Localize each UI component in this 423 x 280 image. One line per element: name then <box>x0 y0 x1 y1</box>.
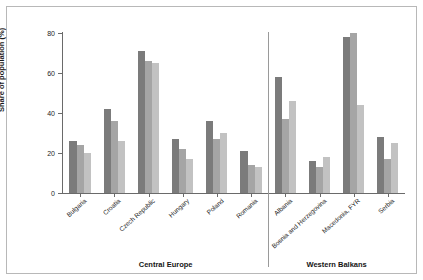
x-axis-category-label: Albania <box>272 197 293 217</box>
x-axis-category-label: Czech Republic <box>118 197 157 233</box>
region-separator <box>268 32 269 267</box>
x-axis-tick <box>149 193 150 197</box>
bar[interactable] <box>77 145 84 193</box>
bar[interactable] <box>240 151 247 193</box>
y-axis-tick-label: 0 <box>51 190 55 197</box>
bar-group <box>172 33 193 193</box>
x-axis-tick <box>354 193 355 197</box>
bar-group-bars <box>377 33 398 193</box>
bar[interactable] <box>145 61 152 193</box>
bar[interactable] <box>357 105 364 193</box>
chart-frame: Share of population (%) 020406080Bulgari… <box>6 6 417 274</box>
bar[interactable] <box>104 109 111 193</box>
x-axis-tick <box>388 193 389 197</box>
bar[interactable] <box>391 143 398 193</box>
bar[interactable] <box>118 141 125 193</box>
bar[interactable] <box>152 63 159 193</box>
y-axis-tick <box>58 113 63 114</box>
y-axis-tick-label: 80 <box>47 30 55 37</box>
bar[interactable] <box>206 121 213 193</box>
bar-group-bars <box>138 33 159 193</box>
x-axis-tick <box>80 193 81 197</box>
bar[interactable] <box>84 153 91 193</box>
bar[interactable] <box>275 77 282 193</box>
bar[interactable] <box>186 159 193 193</box>
bar-group-bars <box>69 33 90 193</box>
x-axis-category-label: Hungary <box>167 197 190 219</box>
bar[interactable] <box>255 167 262 193</box>
region-label: Central Europe <box>139 260 193 269</box>
bar-group-bars <box>343 33 364 193</box>
bar-group-bars <box>275 33 296 193</box>
y-axis-tick-label: 40 <box>47 110 55 117</box>
bar[interactable] <box>282 119 289 193</box>
y-axis-tick-label: 20 <box>47 150 55 157</box>
x-axis-category-label: Poland <box>205 197 225 216</box>
bar[interactable] <box>289 101 296 193</box>
y-axis-tick-label: 60 <box>47 70 55 77</box>
bar[interactable] <box>248 165 255 193</box>
bar-group <box>69 33 90 193</box>
bar[interactable] <box>111 121 118 193</box>
y-axis-tick <box>58 153 63 154</box>
bar[interactable] <box>343 37 350 193</box>
x-axis-tick <box>114 193 115 197</box>
bar-group <box>275 33 296 193</box>
bar[interactable] <box>350 33 357 193</box>
x-axis-tick <box>251 193 252 197</box>
x-axis-tick <box>285 193 286 197</box>
bar[interactable] <box>69 141 76 193</box>
bar-group <box>138 33 159 193</box>
bar[interactable] <box>213 139 220 193</box>
plot-area: 020406080BulgariaCroatiaCzech RepublicHu… <box>63 33 405 193</box>
x-axis-tick <box>217 193 218 197</box>
y-axis-tick <box>58 33 63 34</box>
bar[interactable] <box>377 137 384 193</box>
bar[interactable] <box>384 159 391 193</box>
bar-group <box>309 33 330 193</box>
bar-group-bars <box>309 33 330 193</box>
bar-group <box>343 33 364 193</box>
x-axis-category-label: Romania <box>235 197 259 220</box>
bar-group <box>240 33 261 193</box>
x-axis-tick <box>320 193 321 197</box>
x-axis-tick <box>183 193 184 197</box>
y-axis-tick <box>58 193 63 194</box>
bar-group-bars <box>240 33 261 193</box>
x-axis-category-label: Serbia <box>377 197 396 215</box>
bar[interactable] <box>316 167 323 193</box>
bar[interactable] <box>220 133 227 193</box>
bar[interactable] <box>138 51 145 193</box>
bar-group-bars <box>206 33 227 193</box>
bar-group <box>377 33 398 193</box>
bar-group-bars <box>172 33 193 193</box>
bar[interactable] <box>309 161 316 193</box>
bar[interactable] <box>323 157 330 193</box>
y-axis-title: Share of population (%) <box>0 28 6 112</box>
y-axis-tick <box>58 73 63 74</box>
region-label: Western Balkans <box>306 260 366 269</box>
bar[interactable] <box>172 139 179 193</box>
bar[interactable] <box>179 149 186 193</box>
x-axis-category-label: Croatia <box>102 197 122 216</box>
bar-group <box>104 33 125 193</box>
bar-group-bars <box>104 33 125 193</box>
x-axis-category-label: Bulgaria <box>65 197 87 218</box>
bar-group <box>206 33 227 193</box>
